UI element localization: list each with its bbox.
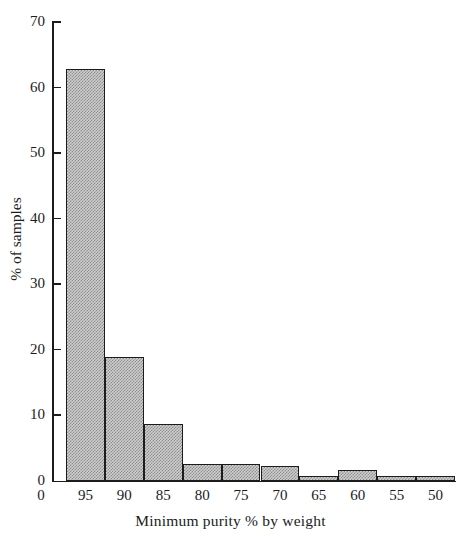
x-axis-tick-label: 70 <box>261 487 300 503</box>
histogram-bar <box>338 470 377 482</box>
x-axis-tick-label: 80 <box>183 487 222 503</box>
histogram-bar <box>222 464 261 482</box>
histogram-bar <box>105 357 144 481</box>
x-axis-line <box>52 481 456 483</box>
histogram-bar <box>144 424 183 481</box>
x-axis-tick-label: 85 <box>144 487 183 503</box>
x-axis-tick-label: 50 <box>416 487 455 503</box>
x-axis-origin-label: 0 <box>30 487 52 504</box>
x-axis-tick-label: 75 <box>222 487 261 503</box>
x-axis-tick-label: 65 <box>299 487 338 503</box>
histogram-bar <box>261 466 300 481</box>
histogram-bar <box>183 464 222 482</box>
histogram-figure: 010203040506070 % of samples 0 959085807… <box>0 0 461 536</box>
x-axis-title: Minimum purity % by weight <box>0 512 461 530</box>
x-axis-tick-label: 95 <box>66 487 105 503</box>
x-axis-tick-label: 90 <box>105 487 144 503</box>
histogram-bar <box>66 69 105 482</box>
x-axis-tick-label: 55 <box>377 487 416 503</box>
bars-container <box>0 0 461 536</box>
x-axis-tick-label: 60 <box>338 487 377 503</box>
